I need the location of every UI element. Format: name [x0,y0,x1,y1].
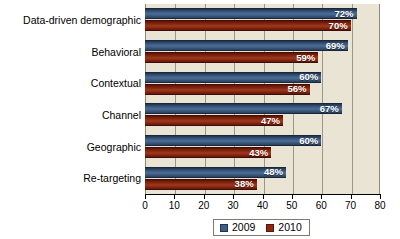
gridline [234,4,235,194]
gridline [175,4,176,194]
bar-2009[interactable]: 72% [145,8,357,19]
bar-value-label: 60% [299,72,318,82]
gridline [205,4,206,194]
bar-value-label: 70% [329,21,348,31]
plot-area [145,4,380,194]
bar-2009[interactable]: 67% [145,103,342,114]
legend-item-2009[interactable]: 2009 [220,222,255,233]
bar-2010[interactable]: 43% [145,147,271,158]
category-label: Data-driven demographic [23,14,141,26]
gridline [293,4,294,194]
category-label: Contextual [91,77,141,89]
gridline [322,4,323,194]
x-axis-tick-label: 30 [221,200,245,212]
category-label: Re-targeting [83,172,141,184]
x-axis-tick [351,194,352,199]
bar-value-label: 47% [261,116,280,126]
x-axis-tick-label: 10 [162,200,186,212]
bar-value-label: 59% [296,53,315,63]
category-label: Channel [102,109,141,121]
x-axis-tick-label: 50 [280,200,304,212]
x-axis-tick-label: 60 [309,200,333,212]
bar-value-label: 69% [326,41,345,51]
gridline [352,4,353,194]
bar-2009[interactable]: 48% [145,167,286,178]
bar-value-label: 60% [299,136,318,146]
x-axis-tick-label: 20 [192,200,216,212]
legend-label-2009: 2009 [232,222,255,233]
x-axis-tick [321,194,322,199]
x-axis-tick [380,194,381,199]
x-axis-tick-label: 40 [251,200,275,212]
legend-item-2010[interactable]: 2010 [266,222,301,233]
bar-2009[interactable]: 60% [145,72,321,83]
chart-legend: 2009 2010 [213,219,310,236]
legend-swatch-2010 [266,224,274,232]
x-axis-tick [233,194,234,199]
bar-2010[interactable]: 59% [145,52,318,63]
legend-label-2010: 2010 [278,222,301,233]
bar-2010[interactable]: 70% [145,20,351,31]
bar-2009[interactable]: 69% [145,40,348,51]
x-axis-tick-label: 70 [339,200,363,212]
bar-2010[interactable]: 56% [145,84,310,95]
bar-2010[interactable]: 38% [145,179,257,190]
x-axis-tick [263,194,264,199]
bar-value-label: 56% [287,84,306,94]
bar-value-label: 38% [235,179,254,189]
bar-value-label: 48% [264,167,283,177]
x-axis-tick [174,194,175,199]
legend-swatch-2009 [220,224,228,232]
x-axis-tick [204,194,205,199]
grouped-bar-chart: 01020304050607080 Data-driven demographi… [0,0,400,239]
bar-value-label: 72% [334,9,353,19]
x-axis-tick-label: 80 [368,200,392,212]
x-axis-tick [145,194,146,199]
x-axis-tick-label: 0 [133,200,157,212]
x-axis-tick [292,194,293,199]
bar-2009[interactable]: 60% [145,135,321,146]
bar-value-label: 67% [320,104,339,114]
bar-2010[interactable]: 47% [145,115,283,126]
bar-value-label: 43% [249,148,268,158]
category-label: Geographic [87,141,141,153]
category-label: Behavioral [91,46,141,58]
